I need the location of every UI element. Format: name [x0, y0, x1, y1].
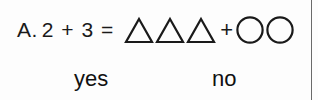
worksheet-problem-cell: A. 2 + 3 = + — [0, 0, 318, 100]
cell-right-border — [311, 0, 312, 100]
problem-number-label: A. — [17, 18, 38, 42]
shape-expression: + — [124, 15, 295, 45]
circle-group — [235, 15, 295, 45]
circle-icon — [235, 15, 265, 45]
problem-statement-row: A. 2 + 3 = + — [0, 12, 295, 48]
triangle-icon — [124, 15, 154, 45]
triangle-icon — [155, 15, 185, 45]
circle-icon — [265, 15, 295, 45]
answer-options-row: yes no — [0, 68, 318, 100]
triangle-group — [124, 15, 217, 45]
answer-option-yes[interactable]: yes — [74, 68, 108, 90]
triangle-icon — [186, 15, 216, 45]
answer-option-no[interactable]: no — [212, 68, 236, 90]
numeric-equation: 2 + 3 = — [42, 18, 114, 42]
plus-icon: + — [220, 19, 233, 41]
